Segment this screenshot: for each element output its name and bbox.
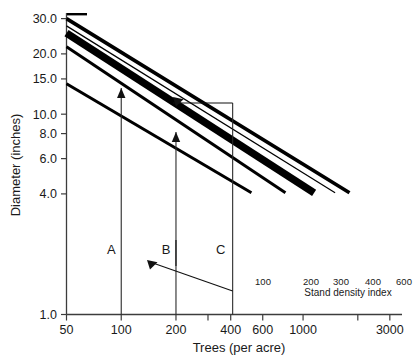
sdi-line-400 bbox=[67, 26, 336, 193]
x-axis-title: Trees (per acre) bbox=[193, 340, 286, 355]
sdi-value-label-300: 300 bbox=[333, 276, 349, 287]
x-tick-label: 100 bbox=[111, 323, 132, 337]
y-tick-label: 1.0 bbox=[40, 308, 57, 322]
sdi-value-label-200: 200 bbox=[303, 276, 319, 287]
reference-label-A: A bbox=[107, 242, 116, 257]
y-tick-group: 30.020.015.010.08.06.04.01.0 bbox=[33, 12, 67, 322]
x-tick-label: 50 bbox=[60, 323, 74, 337]
sdi-value-label-400: 400 bbox=[365, 276, 381, 287]
arrow-head-c-lower bbox=[147, 260, 158, 270]
x-tick-label: 400 bbox=[220, 323, 241, 337]
arrow-head-b bbox=[172, 132, 180, 142]
y-tick-label: 10.0 bbox=[33, 108, 57, 122]
reference-label-group: ABC bbox=[107, 242, 225, 257]
annotation-line-c-lower bbox=[150, 262, 233, 291]
y-tick-label: 15.0 bbox=[33, 72, 57, 86]
sdi-label-group: 600400300200100 bbox=[255, 276, 412, 287]
sdi-line-300 bbox=[67, 33, 315, 193]
sdi-line-group bbox=[67, 19, 350, 193]
x-tick-label: 1000 bbox=[289, 323, 317, 337]
reference-label-C: C bbox=[216, 242, 225, 257]
y-tick-label: 8.0 bbox=[40, 127, 57, 141]
y-axis-title: Diameter (inches) bbox=[8, 114, 23, 217]
axes-group bbox=[67, 13, 403, 315]
sdi-caption-label: Stand density index bbox=[304, 287, 391, 298]
sdi-value-label-600: 600 bbox=[396, 276, 412, 287]
y-tick-label: 4.0 bbox=[40, 187, 57, 201]
y-tick-label: 30.0 bbox=[33, 12, 57, 26]
y-tick-label: 20.0 bbox=[33, 47, 57, 61]
sdi-value-label-100: 100 bbox=[255, 276, 271, 287]
x-tick-group: 5010020040060010003000 bbox=[60, 315, 404, 338]
stand-density-index-chart: 30.020.015.010.08.06.04.01.0 50100200400… bbox=[0, 0, 414, 359]
chart-canvas: 30.020.015.010.08.06.04.01.0 50100200400… bbox=[0, 0, 414, 359]
y-tick-label: 6.0 bbox=[40, 152, 57, 166]
x-tick-label: 3000 bbox=[376, 323, 404, 337]
x-tick-label: 600 bbox=[252, 323, 273, 337]
x-tick-label: 200 bbox=[166, 323, 187, 337]
arrow-head-a bbox=[117, 88, 125, 98]
reference-label-B: B bbox=[162, 242, 171, 257]
